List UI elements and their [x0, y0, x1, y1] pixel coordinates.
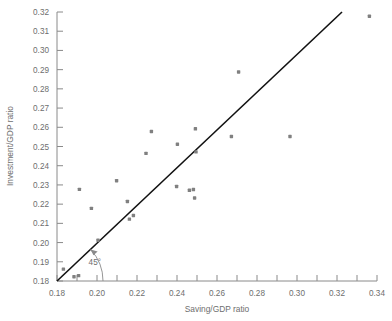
y-tick-label: 0.21: [33, 219, 49, 228]
x-tick-label: 0.26: [209, 289, 225, 298]
y-tick-label: 0.22: [33, 200, 49, 209]
data-point: [230, 135, 233, 138]
x-axis-title: Saving/GDP ratio: [185, 304, 250, 314]
y-tick-label: 0.18: [33, 277, 49, 286]
scatter-chart-figure: 0.180.190.200.210.220.230.240.250.260.27…: [0, 0, 392, 321]
x-tick-label: 0.30: [289, 289, 305, 298]
y-axis-tick-labels: 0.180.190.200.210.220.230.240.250.260.27…: [33, 8, 49, 286]
data-point: [144, 152, 147, 155]
data-point: [175, 185, 178, 188]
data-point: [90, 207, 93, 210]
data-point-group: [62, 15, 371, 279]
y-tick-label: 0.24: [33, 162, 49, 171]
data-point: [194, 127, 197, 130]
data-point: [62, 267, 65, 270]
forty-five-degree-line: [57, 12, 342, 281]
data-point: [188, 189, 191, 192]
x-tick-label: 0.28: [249, 289, 265, 298]
y-tick-label: 0.25: [33, 143, 49, 152]
y-tick-label: 0.23: [33, 181, 49, 190]
data-point: [96, 239, 99, 242]
data-point: [192, 188, 195, 191]
angle-label: 45°: [89, 258, 101, 267]
x-tick-label: 0.20: [89, 289, 105, 298]
y-tick-label: 0.32: [33, 8, 49, 17]
x-tick-label: 0.22: [129, 289, 145, 298]
x-tick-label: 0.34: [369, 289, 385, 298]
data-point: [115, 179, 118, 182]
y-tick-label: 0.30: [33, 46, 49, 55]
data-point: [126, 200, 129, 203]
angle-annotation: 45°: [89, 250, 103, 282]
data-point: [288, 135, 291, 138]
axes-lines: [57, 12, 377, 281]
angle-arrow-head: [91, 250, 98, 256]
data-point: [237, 70, 240, 73]
x-tick-label: 0.32: [329, 289, 345, 298]
y-tick-label: 0.19: [33, 258, 49, 267]
y-axis-title: Investment/GDP ratio: [5, 106, 15, 186]
plot-canvas: 0.180.190.200.210.220.230.240.250.260.27…: [0, 0, 392, 321]
x-tick-label: 0.18: [49, 289, 65, 298]
x-tick-label: 0.24: [169, 289, 185, 298]
data-point: [77, 274, 80, 277]
data-point: [132, 214, 135, 217]
data-point: [194, 150, 197, 153]
y-tick-label: 0.29: [33, 66, 49, 75]
data-point: [193, 196, 196, 199]
data-point: [176, 142, 179, 145]
y-axis-ticks: [57, 12, 63, 281]
x-axis-tick-labels: 0.180.200.220.240.260.280.300.320.34: [49, 289, 385, 298]
data-point: [150, 130, 153, 133]
data-point: [72, 275, 75, 278]
data-point: [78, 188, 81, 191]
y-tick-label: 0.28: [33, 85, 49, 94]
y-tick-label: 0.31: [33, 27, 49, 36]
x-axis-ticks: [57, 275, 377, 281]
data-point: [128, 217, 131, 220]
y-tick-label: 0.27: [33, 104, 49, 113]
y-tick-label: 0.20: [33, 239, 49, 248]
data-point: [368, 15, 371, 18]
y-tick-label: 0.26: [33, 123, 49, 132]
